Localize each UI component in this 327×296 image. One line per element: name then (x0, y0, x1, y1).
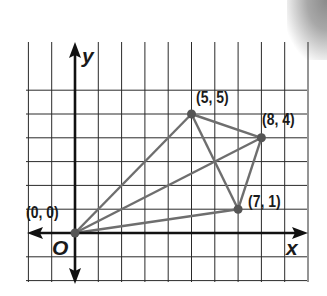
segment-P0-P1 (75, 114, 192, 233)
point-0-0 (71, 229, 80, 238)
coordinate-plane (0, 0, 327, 296)
y-axis-label: y (82, 44, 94, 68)
point-8-4 (257, 133, 266, 142)
point-5-5 (187, 110, 196, 119)
point-label-5-5: (5, 5) (196, 88, 229, 108)
point-label-8-4: (8, 4) (262, 110, 295, 130)
origin-label: O (52, 236, 68, 260)
x-axis-label: x (286, 236, 298, 260)
point-7-1 (234, 205, 243, 214)
axes (27, 42, 308, 284)
point-label-0-0: (0, 0) (26, 203, 59, 223)
point-label-7-1: (7, 1) (248, 192, 281, 212)
